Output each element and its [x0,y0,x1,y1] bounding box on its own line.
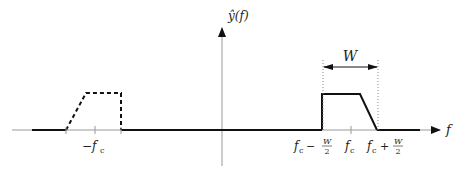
x-axis-label: f [445,122,453,137]
svg-text:−: − [306,140,315,153]
positive-frequency-spectrum [322,94,377,130]
bandwidth-label: W [343,48,359,64]
svg-text:2: 2 [395,147,400,156]
svg-text:c: c [100,146,105,155]
label-fc: f c [344,139,355,155]
svg-text:2: 2 [324,147,329,156]
negative-frequency-spectrum [66,93,121,130]
label-fc-plus-half-w: f c + W 2 [366,137,403,156]
svg-text:W: W [394,137,403,146]
label-neg-fc: −f c [82,139,105,155]
svg-text:c: c [372,146,377,155]
svg-text:c: c [299,146,304,155]
y-axis-label: ŷ(f) [227,9,249,23]
svg-text:c: c [350,146,355,155]
svg-text:−f: −f [82,139,99,153]
spectrum-diagram: W ŷ(f) f −f c f c − W 2 f c f c + W 2 [0,0,456,176]
svg-text:W: W [323,137,332,146]
label-fc-minus-half-w: f c − W 2 [293,137,332,156]
svg-text:+: + [380,140,389,153]
